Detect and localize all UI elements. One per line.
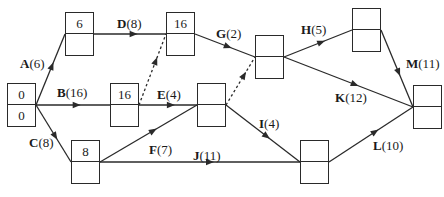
arrowhead-icon — [151, 56, 160, 66]
activity-name: K — [335, 90, 345, 105]
activity-duration: (10) — [382, 138, 404, 153]
arrowhead-icon — [350, 80, 360, 89]
event-node-after-g — [255, 35, 284, 79]
arrowhead-icon — [370, 127, 380, 137]
activity-label-m: M(11) — [406, 57, 439, 70]
activity-name: D — [117, 16, 126, 31]
latest-time — [256, 57, 283, 78]
earliest-time: 0 — [8, 84, 35, 105]
event-node-after-a: 6 — [65, 12, 94, 56]
event-node-after-ef — [197, 83, 226, 127]
activity-duration: (2) — [226, 26, 241, 41]
earliest-time: 6 — [66, 13, 93, 34]
activity-duration: (7) — [157, 142, 172, 157]
latest-time — [111, 105, 138, 126]
earliest-time: 16 — [167, 13, 194, 34]
arrowhead-icon — [239, 70, 249, 80]
activity-name: H — [301, 22, 311, 37]
activity-label-j: J(11) — [193, 149, 221, 162]
arrowhead-icon — [167, 102, 175, 108]
earliest-time — [198, 84, 225, 105]
activity-label-a: A(6) — [20, 57, 45, 70]
latest-time — [72, 162, 99, 183]
activity-duration: (11) — [200, 148, 221, 163]
activity-label-k: K(12) — [335, 91, 367, 104]
activity-label-h: H(5) — [301, 23, 326, 36]
earliest-time — [353, 9, 380, 30]
earliest-time — [256, 36, 283, 57]
activity-name: L — [373, 138, 382, 153]
activity-name: M — [406, 56, 418, 71]
network-diagram: 0 0 6 16 8 16 A(6) B(16) C(8) D(8) E(4) — [0, 0, 444, 197]
earliest-time — [301, 141, 328, 162]
arrowhead-icon — [73, 102, 81, 108]
arrowhead-icon — [317, 38, 327, 47]
latest-time — [301, 162, 328, 183]
activity-label-l: L(10) — [373, 139, 403, 152]
event-node-end — [413, 85, 442, 129]
activity-duration: (16) — [66, 85, 88, 100]
activity-duration: (6) — [29, 56, 44, 71]
activity-name: B — [57, 85, 66, 100]
activity-label-c: C(8) — [29, 136, 54, 149]
activity-label-b: B(16) — [57, 86, 87, 99]
dummy-activity-line — [226, 57, 255, 105]
arrowhead-icon — [148, 126, 158, 136]
arrowhead-icon — [223, 42, 233, 51]
latest-time — [353, 30, 380, 51]
activity-duration: (12) — [345, 90, 367, 105]
activity-duration: (4) — [264, 116, 279, 131]
arrowhead-icon — [394, 67, 403, 77]
activity-name: E — [157, 87, 166, 102]
event-node-after-ij — [300, 140, 329, 184]
activity-duration: (4) — [166, 87, 181, 102]
event-node-after-c: 8 — [71, 140, 100, 184]
activity-label-f: F(7) — [149, 143, 172, 156]
earliest-time: 8 — [72, 141, 99, 162]
earliest-time: 16 — [111, 84, 138, 105]
latest-time: 0 — [8, 105, 35, 126]
latest-time — [198, 105, 225, 126]
activity-label-d: D(8) — [117, 17, 142, 30]
activity-label-g: G(2) — [216, 27, 241, 40]
arrowhead-icon — [130, 31, 138, 37]
activity-label-i: I(4) — [259, 117, 279, 130]
activity-name: A — [20, 56, 29, 71]
event-node-after-d: 16 — [166, 12, 195, 56]
event-node-after-h — [352, 8, 381, 52]
activity-line — [226, 105, 300, 162]
earliest-time — [414, 86, 441, 107]
activity-name: C — [29, 135, 38, 150]
activity-duration: (8) — [126, 16, 141, 31]
arrowhead-icon — [47, 61, 56, 71]
activity-duration: (11) — [418, 56, 439, 71]
event-node-after-b: 16 — [110, 83, 139, 127]
latest-time — [167, 34, 194, 55]
activity-duration: (8) — [38, 135, 53, 150]
latest-time — [66, 34, 93, 55]
activity-duration: (5) — [311, 22, 326, 37]
activity-name: F — [149, 142, 157, 157]
activity-line — [329, 107, 413, 162]
activity-label-e: E(4) — [157, 88, 181, 101]
activity-name: G — [216, 26, 226, 41]
event-node-start: 0 0 — [7, 83, 36, 127]
latest-time — [414, 107, 441, 128]
